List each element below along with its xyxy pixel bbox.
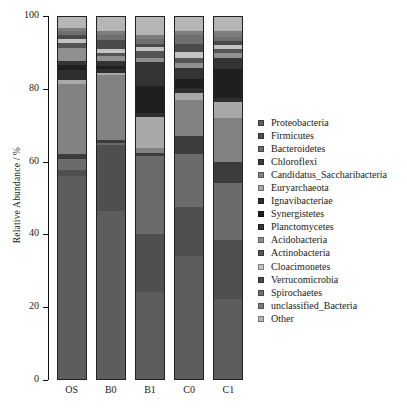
bar-segment	[175, 44, 203, 52]
legend-color-swatch	[258, 290, 264, 296]
bar-segment	[136, 62, 164, 86]
bar-segment	[175, 35, 203, 44]
legend-item[interactable]: Candidatus_Saccharibacteria	[258, 168, 406, 181]
bar-segment	[97, 40, 125, 49]
legend-item[interactable]: Cloacimonetes	[258, 260, 406, 273]
legend-color-swatch	[258, 172, 264, 178]
bar-segment	[214, 69, 242, 98]
legend-item-label: Euryarchaeota	[271, 183, 329, 193]
bar-segment	[97, 75, 125, 140]
legend-item-label: Bacteroidetes	[271, 144, 325, 154]
legend-item[interactable]: Acidobacteria	[258, 234, 406, 247]
legend-item[interactable]: Firmicutes	[258, 129, 406, 142]
bar-segment	[58, 70, 86, 79]
legend-item-label: Cloacimonetes	[271, 262, 330, 272]
plot-area: 020406080100 OSB0B1C0C1	[48, 16, 244, 380]
chart-legend: ProteobacteriaFirmicutesBacteroidetesChl…	[258, 116, 406, 326]
legend-item-label: Ignavibacteriae	[271, 196, 333, 206]
stacked-bar[interactable]	[135, 16, 165, 380]
y-axis-tick: 40	[43, 234, 48, 235]
stacked-bar[interactable]	[96, 16, 126, 380]
legend-item[interactable]: Euryarchaeota	[258, 181, 406, 194]
legend-item[interactable]: Planctomycetes	[258, 221, 406, 234]
bar-segment	[175, 17, 203, 31]
x-axis-tick-label: C1	[208, 384, 248, 395]
bar-segment	[175, 154, 203, 206]
bar-segment	[175, 100, 203, 136]
bar-segment	[175, 93, 203, 100]
legend-item-label: unclassified_Bacteria	[271, 301, 357, 311]
legend-item[interactable]: Ignavibacteriae	[258, 195, 406, 208]
bar-segment	[136, 51, 164, 58]
legend-color-swatch	[258, 277, 264, 283]
legend-color-swatch	[258, 237, 264, 243]
legend-item[interactable]: Proteobacteria	[258, 116, 406, 129]
stacked-bar-chart-figure: Relative Abundance / % 020406080100 OSB0…	[0, 0, 407, 413]
y-axis-tick: 20	[43, 307, 48, 308]
x-axis-tick-label: B1	[130, 384, 170, 395]
bar-segment	[214, 162, 242, 184]
y-axis-tick: 0	[43, 380, 48, 381]
bar-segment	[136, 86, 164, 113]
legend-item-label: Proteobacteria	[271, 118, 329, 128]
legend-item[interactable]: unclassified_Bacteria	[258, 299, 406, 312]
legend-item-label: Synergistetes	[271, 209, 324, 219]
y-axis-tick: 80	[43, 89, 48, 90]
bar-segment	[214, 240, 242, 300]
bar-segment	[175, 136, 203, 154]
legend-item[interactable]: Synergistetes	[258, 208, 406, 221]
x-axis-tick-label: C0	[169, 384, 209, 395]
y-axis-line	[48, 16, 49, 380]
bar-segment	[214, 102, 242, 118]
y-axis-tick: 60	[43, 162, 48, 163]
legend-color-swatch	[258, 120, 264, 126]
legend-color-swatch	[258, 303, 264, 309]
legend-item-label: Candidatus_Saccharibacteria	[271, 170, 387, 180]
y-axis-tick-label: 60	[29, 155, 39, 166]
bar-segment	[136, 292, 164, 379]
legend-color-swatch	[258, 198, 264, 204]
bar-segment	[175, 68, 203, 79]
legend-item[interactable]: Bacteroidetes	[258, 142, 406, 155]
legend-item-label: Firmicutes	[271, 131, 314, 141]
legend-item[interactable]: Actinobacteria	[258, 247, 406, 260]
legend-color-swatch	[258, 146, 264, 152]
bar-segment	[58, 48, 86, 61]
legend-color-swatch	[258, 133, 264, 139]
legend-color-swatch	[258, 211, 264, 217]
legend-item-label: Planctomycetes	[271, 222, 334, 232]
legend-color-swatch	[258, 159, 264, 165]
legend-item-label: Acidobacteria	[271, 235, 327, 245]
bar-segment	[58, 84, 86, 154]
stacked-bar[interactable]	[213, 16, 243, 380]
legend-item[interactable]: Other	[258, 312, 406, 325]
stacked-bar[interactable]	[57, 16, 87, 380]
bar-segment	[97, 211, 125, 379]
bar-segment	[214, 118, 242, 161]
legend-color-swatch	[258, 185, 264, 191]
bar-segment	[136, 234, 164, 292]
bar-segment	[58, 17, 86, 28]
y-axis-tick-label: 0	[34, 373, 39, 384]
stacked-bar[interactable]	[174, 16, 204, 380]
y-axis-tick: 100	[43, 16, 48, 17]
legend-item-label: Other	[271, 314, 294, 324]
legend-color-swatch	[258, 316, 264, 322]
legend-item[interactable]: Verrucomicrobia	[258, 273, 406, 286]
bar-segment	[175, 256, 203, 379]
bar-segment	[175, 79, 203, 88]
y-axis-tick-label: 80	[29, 82, 39, 93]
legend-item[interactable]: Spirochaetes	[258, 286, 406, 299]
bar-segment	[214, 183, 242, 239]
legend-item-label: Chloroflexi	[271, 157, 317, 167]
legend-item-label: Verrucomicrobia	[271, 275, 338, 285]
x-axis-tick-label: OS	[52, 384, 92, 395]
legend-color-swatch	[258, 224, 264, 230]
bar-segment	[214, 17, 242, 31]
legend-color-swatch	[258, 250, 264, 256]
legend-color-swatch	[258, 264, 264, 270]
x-axis-tick-label: B0	[91, 384, 131, 395]
y-axis-title: Relative Abundance / %	[12, 115, 22, 275]
legend-item[interactable]: Chloroflexi	[258, 155, 406, 168]
bar-segment	[175, 207, 203, 256]
